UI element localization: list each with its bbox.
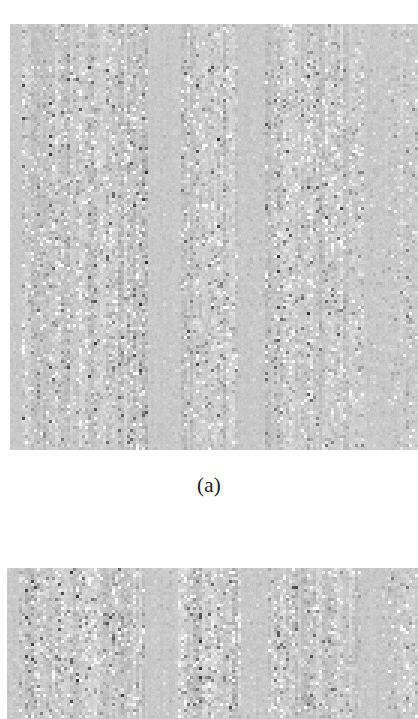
heatmap-canvas-a [10, 24, 418, 450]
heatmap-panel-b [7, 568, 418, 719]
heatmap-canvas-b [7, 568, 418, 719]
heatmap-panel-a [10, 24, 418, 450]
figure-root: (a) [0, 0, 418, 719]
subfigure-caption-a: (a) [0, 473, 418, 498]
